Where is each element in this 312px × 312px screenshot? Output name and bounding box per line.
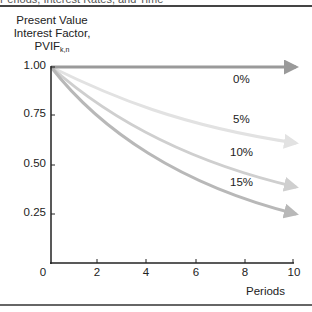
bottom-divider: [0, 304, 312, 306]
x-tick-6: 6: [186, 266, 206, 278]
x-tick-2: 2: [87, 266, 107, 278]
label-15-percent: 15%: [230, 176, 253, 188]
label-5-percent: 5%: [233, 113, 250, 125]
x-tick-10: 10: [284, 266, 304, 278]
x-axis-title: Periods: [246, 285, 285, 297]
y-axis: [51, 66, 55, 264]
x-tick-8: 8: [235, 266, 255, 278]
label-0-percent: 0%: [233, 73, 250, 85]
curve-5-percent: [51, 67, 296, 143]
x-tick-4: 4: [136, 266, 156, 278]
x-tick-0: 0: [33, 266, 53, 278]
label-10-percent: 10%: [230, 146, 253, 158]
x-axis: [50, 259, 294, 263]
curve-15-percent: [51, 67, 296, 214]
